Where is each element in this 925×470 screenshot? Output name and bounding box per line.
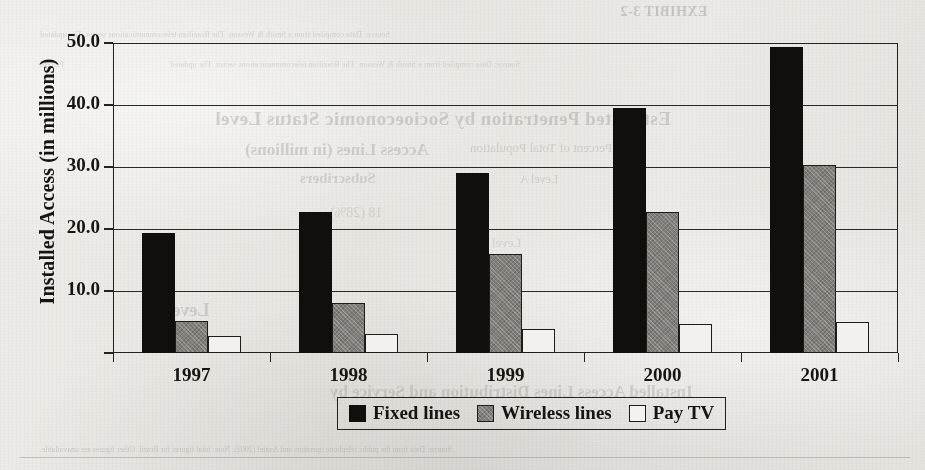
bar-fixed-lines-1999[interactable]: [456, 173, 489, 353]
y-tick-mark: [104, 104, 113, 105]
bar-group-1999: [427, 43, 584, 353]
bar-fixed-lines-2000[interactable]: [613, 108, 646, 353]
x-axis-label-1997: 1997: [113, 364, 270, 386]
x-tick-mark: [270, 353, 271, 362]
bar-pay-tv-1998[interactable]: [365, 334, 398, 353]
bar-chart: Installed Access (in millions) 10.020.03…: [0, 0, 925, 470]
legend-item-pay-tv[interactable]: Pay TV: [629, 402, 714, 424]
x-axis-label-1998: 1998: [270, 364, 427, 386]
y-tick-label: 30.0: [67, 154, 100, 176]
y-tick-mark: [104, 352, 113, 353]
legend-label: Fixed lines: [373, 402, 460, 424]
bar-groups: [113, 43, 898, 353]
bar-pay-tv-1997[interactable]: [208, 336, 241, 354]
x-axis-label-1999: 1999: [427, 364, 584, 386]
bar-wireless-lines-1998[interactable]: [332, 303, 365, 353]
bar-pay-tv-1999[interactable]: [522, 329, 555, 353]
y-tick-mark: [104, 228, 113, 229]
bar-fixed-lines-1997[interactable]: [142, 233, 175, 353]
bar-group-1997: [113, 43, 270, 353]
x-axis-label-2001: 2001: [741, 364, 898, 386]
legend-item-wireless-lines[interactable]: Wireless lines: [477, 402, 612, 424]
legend-item-fixed-lines[interactable]: Fixed lines: [349, 402, 460, 424]
y-tick-mark: [104, 42, 113, 43]
x-tick-mark: [113, 353, 114, 362]
y-tick-label: 50.0: [67, 30, 100, 52]
y-tick-mark: [104, 290, 113, 291]
bar-pay-tv-2000[interactable]: [679, 324, 712, 353]
legend-label: Pay TV: [653, 402, 714, 424]
bar-wireless-lines-2000[interactable]: [646, 212, 679, 353]
bar-group-2000: [584, 43, 741, 353]
x-axis-label-2000: 2000: [584, 364, 741, 386]
legend-swatch-icon: [477, 405, 494, 422]
x-tick-mark-end: [898, 353, 899, 362]
x-tick-mark: [427, 353, 428, 362]
bar-wireless-lines-2001[interactable]: [803, 165, 836, 353]
y-axis-label: Installed Access (in millions): [36, 17, 59, 347]
chart-legend: Fixed linesWireless linesPay TV: [337, 397, 726, 430]
y-tick-label: 10.0: [67, 278, 100, 300]
legend-swatch-icon: [629, 405, 646, 422]
x-axis-labels: 19971998199920002001: [113, 364, 898, 386]
bar-wireless-lines-1997[interactable]: [175, 321, 208, 353]
x-tick-mark: [584, 353, 585, 362]
bar-fixed-lines-1998[interactable]: [299, 212, 332, 353]
x-tick-mark: [741, 353, 742, 362]
bar-group-1998: [270, 43, 427, 353]
y-tick-label: 20.0: [67, 216, 100, 238]
bar-wireless-lines-1999[interactable]: [489, 254, 522, 353]
y-tick-mark: [104, 166, 113, 167]
plot-area: 10.020.030.040.050.0: [113, 43, 898, 353]
legend-swatch-icon: [349, 405, 366, 422]
bar-pay-tv-2001[interactable]: [836, 322, 869, 353]
y-tick-label: 40.0: [67, 92, 100, 114]
legend-label: Wireless lines: [501, 402, 612, 424]
bar-fixed-lines-2001[interactable]: [770, 47, 803, 353]
bar-group-2001: [741, 43, 898, 353]
